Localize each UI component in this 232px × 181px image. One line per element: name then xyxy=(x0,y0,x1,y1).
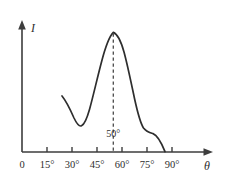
x-tick-label-45: 45° xyxy=(90,159,105,170)
arrow-right-icon xyxy=(204,148,214,156)
x-tick-label-15: 15° xyxy=(40,159,55,170)
x-tick-label-0: 0 xyxy=(19,159,24,170)
chart-canvas: I θ 50° 0 15° 30° 45° 60° 75° 90° xyxy=(0,0,232,181)
x-tick-label-60: 60° xyxy=(115,159,130,170)
peak-angle-annotation: 50° xyxy=(106,128,120,139)
x-tick-label-75: 75° xyxy=(140,159,155,170)
y-axis-label: I xyxy=(30,21,36,35)
x-tick-label-90: 90° xyxy=(165,159,180,170)
x-tick-label-30: 30° xyxy=(65,159,80,170)
x-axis-label: θ xyxy=(204,159,210,173)
diffraction-intensity-chart: I θ 50° 0 15° 30° 45° 60° 75° 90° xyxy=(0,0,232,181)
arrow-up-icon xyxy=(18,20,26,30)
